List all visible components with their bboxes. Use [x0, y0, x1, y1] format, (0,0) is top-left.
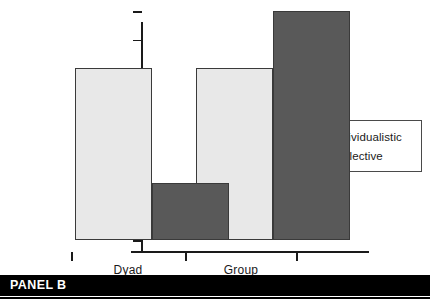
y-tick-0	[133, 240, 142, 242]
bar-group-collective	[273, 11, 350, 240]
x-tick-0	[71, 252, 73, 261]
bar-dyad-individualistic	[75, 68, 152, 240]
plot-area: Impasse Rates (%) 0510152025303540 DyadG…	[71, 11, 296, 240]
figure-panel-b: Impasse Rates (%) 0510152025303540 DyadG…	[0, 0, 430, 299]
x-tick-2	[296, 252, 298, 261]
bar-dyad-collective	[152, 183, 229, 240]
x-axis-line	[131, 251, 369, 253]
y-tick-35	[133, 40, 142, 42]
panel-label: PANEL B	[10, 278, 67, 292]
y-tick-40	[133, 11, 142, 13]
x-tick-1	[185, 252, 187, 261]
